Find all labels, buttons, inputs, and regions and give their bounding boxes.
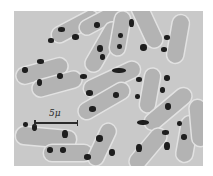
micrograph-image: 5μ xyxy=(14,11,203,166)
nuclear-body xyxy=(72,34,79,40)
nuclear-body xyxy=(161,47,167,52)
nuclear-body xyxy=(37,59,44,64)
nuclear-body xyxy=(97,45,103,52)
nuclear-body xyxy=(136,77,142,82)
nuclear-body xyxy=(117,44,122,49)
scale-bar-label: 5μ xyxy=(49,108,61,118)
bacterial-cell xyxy=(166,14,190,64)
nuclear-body xyxy=(58,27,65,32)
nuclear-body xyxy=(135,94,140,99)
nuclear-body xyxy=(22,67,28,73)
nuclear-body xyxy=(60,147,66,153)
nuclear-body xyxy=(118,33,123,38)
nuclear-body xyxy=(96,135,103,142)
nuclear-body xyxy=(37,79,42,86)
nuclear-body xyxy=(89,106,96,112)
nuclear-body xyxy=(94,22,100,28)
nuclear-body xyxy=(129,19,134,27)
nuclear-body xyxy=(109,149,115,156)
nuclear-body xyxy=(80,74,87,79)
nuclear-body xyxy=(165,103,171,110)
nuclear-body xyxy=(100,54,105,60)
nuclear-body xyxy=(177,121,182,126)
nuclear-body xyxy=(164,142,170,150)
nuclear-body xyxy=(113,92,119,98)
nuclear-body xyxy=(160,87,165,93)
nuclear-body xyxy=(84,154,91,160)
nuclear-body xyxy=(112,68,126,73)
bacterial-cell xyxy=(129,11,165,50)
nuclear-body xyxy=(136,144,142,152)
nuclear-body xyxy=(62,130,68,138)
nuclear-body xyxy=(181,134,187,140)
nuclear-body xyxy=(140,44,147,51)
nuclear-body xyxy=(162,130,169,135)
nuclear-body xyxy=(164,35,170,40)
nuclear-body xyxy=(137,120,149,125)
nuclear-body xyxy=(23,122,28,127)
bacterial-cell xyxy=(86,121,118,166)
nuclear-body xyxy=(164,75,170,81)
nuclear-body xyxy=(86,90,93,96)
nuclear-body xyxy=(47,147,53,153)
nuclear-body xyxy=(57,73,63,79)
nuclear-body xyxy=(48,38,54,43)
scale-bar xyxy=(34,122,78,124)
